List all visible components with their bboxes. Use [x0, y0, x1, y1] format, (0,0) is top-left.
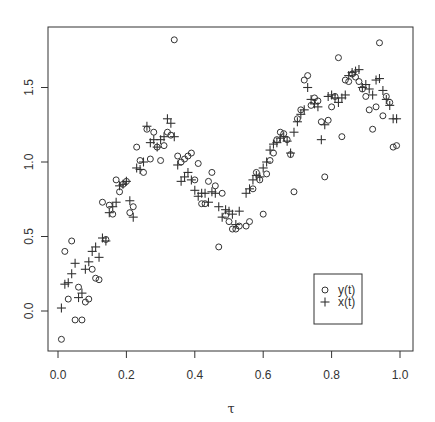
legend: y(t) x(t): [314, 274, 362, 324]
y-tick-label: 1.5: [22, 79, 36, 96]
x-tick-label: 0.4: [186, 368, 203, 382]
x-tick-label: 0.0: [50, 368, 67, 382]
y-tick-label: 1.0: [22, 153, 36, 170]
x-tick-label: 0.6: [255, 368, 272, 382]
scatter-chart: 0.00.20.40.60.81.0 0.00.51.01.5 τ y(t) x…: [0, 0, 435, 422]
x-tick-label: 1.0: [392, 368, 409, 382]
x-tick-label: 0.2: [118, 368, 135, 382]
x-tick-label: 0.8: [323, 368, 340, 382]
y-tick-label: 0.5: [22, 228, 36, 245]
x-axis-title: τ: [227, 401, 234, 416]
legend-label-x: x(t): [338, 295, 355, 309]
chart-background: [0, 0, 435, 422]
y-tick-label: 0.0: [22, 302, 36, 319]
